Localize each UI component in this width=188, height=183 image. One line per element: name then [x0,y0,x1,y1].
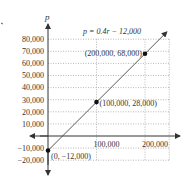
point-label: (200,000, 68,000) [85,49,143,58]
data-point [46,148,51,153]
y-tick-labels: 80,00070,00060,00050,00040,00030,00020,0… [17,35,44,165]
x-tick-label: 100,000 [94,140,120,149]
x-tick-label: 200,000 [142,140,168,149]
data-point [94,100,99,105]
y-tick-label: 20,000 [22,108,44,117]
y-tick-label: 30,000 [22,96,44,105]
y-tick-label: 70,000 [22,47,44,56]
equation-label: p = 0.4r − 12,000 [82,27,141,36]
corner-mark [1,23,3,24]
y-tick-label: 60,000 [22,59,44,68]
y-tick-label: −10,000 [17,144,44,153]
y-tick-label: 40,000 [22,83,44,92]
y-axis-label: p [44,12,50,22]
data-point [143,51,148,56]
chart: 80,00070,00060,00050,00040,00030,00020,0… [0,0,188,183]
point-label: (0, −12,000) [51,152,91,161]
y-tick-label: 80,000 [22,35,44,44]
y-tick-label: 10,000 [22,120,44,129]
point-label: (100,000, 28,000) [100,99,158,108]
y-tick-label: 50,000 [22,71,44,80]
y-tick-label: −20,000 [17,156,44,165]
x-tick-labels: 100,000200,000 [94,140,169,149]
